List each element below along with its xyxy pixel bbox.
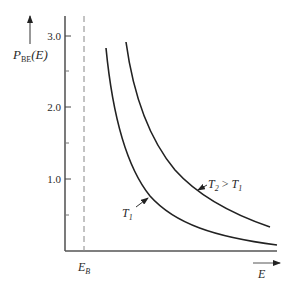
t1-pointer-icon xyxy=(136,198,148,207)
y-axis-label: PBE(E) xyxy=(12,47,48,64)
y-tick-label-2: 2.0 xyxy=(47,101,61,113)
t1-label: T1 xyxy=(122,206,133,222)
y-tick-label-1: 1.0 xyxy=(47,173,61,185)
chart: PBE(E) 3.0 2.0 1.0 EB E T1 T2 > T1 xyxy=(0,0,293,288)
t2-label: T2 > T1 xyxy=(208,177,242,193)
eb-label: EB xyxy=(77,260,90,276)
curve-t2 xyxy=(126,42,270,227)
y-tick-label-3: 3.0 xyxy=(47,30,61,42)
x-axis-label: E xyxy=(257,267,266,281)
t2-pointer-icon xyxy=(198,185,207,190)
